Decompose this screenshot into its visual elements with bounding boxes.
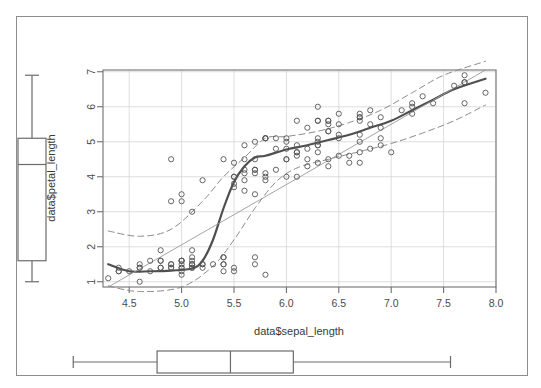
data-point — [221, 269, 226, 274]
y-tick-label: 7 — [85, 69, 97, 75]
data-point — [273, 146, 278, 151]
lower-band — [108, 105, 485, 292]
y-tick-label: 5 — [85, 139, 97, 145]
data-point — [326, 164, 331, 169]
data-point — [315, 150, 320, 155]
linear-fit — [108, 70, 485, 287]
data-point — [357, 160, 362, 165]
data-point — [357, 132, 362, 137]
data-point — [462, 73, 467, 78]
lowess-smoother — [108, 79, 485, 272]
data-point — [242, 188, 247, 193]
y-tick-label: 1 — [85, 279, 97, 285]
y-axis-tick-labels: 1234567 — [85, 69, 97, 285]
y-tick-label: 6 — [85, 104, 97, 110]
data-point — [378, 136, 383, 141]
data-point — [106, 276, 111, 281]
data-point — [315, 118, 320, 123]
data-point — [169, 157, 174, 162]
data-point — [347, 160, 352, 165]
data-point — [200, 178, 205, 183]
x-tick-label: 6.5 — [331, 297, 346, 309]
data-point — [252, 171, 257, 176]
data-point — [326, 122, 331, 127]
data-point — [273, 167, 278, 172]
data-point — [189, 248, 194, 253]
data-point — [221, 262, 226, 267]
data-point — [189, 258, 194, 263]
y-tick-label: 3 — [85, 209, 97, 215]
data-point — [116, 269, 121, 274]
data-point — [368, 122, 373, 127]
x-axis-label: data$sepal_length — [254, 325, 344, 337]
data-point — [326, 129, 331, 134]
data-point — [368, 108, 373, 113]
data-point — [242, 178, 247, 183]
y-tick-label: 2 — [85, 244, 97, 250]
data-point — [378, 125, 383, 130]
x-tick-label: 5.0 — [174, 297, 189, 309]
data-point — [420, 94, 425, 99]
data-point — [294, 118, 299, 123]
scatterplot-figure: 4.55.05.56.06.57.07.58.0 1234567 data$se… — [0, 0, 541, 388]
petal-length-boxplot — [18, 75, 46, 282]
data-point — [169, 199, 174, 204]
data-point — [263, 272, 268, 277]
boxplot-box — [157, 351, 293, 373]
data-point — [378, 115, 383, 120]
sepal-length-boxplot — [73, 351, 450, 373]
data-point — [252, 192, 257, 197]
data-point — [158, 248, 163, 253]
data-point — [483, 90, 488, 95]
data-point — [305, 157, 310, 162]
y-tick-label: 4 — [85, 174, 97, 180]
data-point — [221, 157, 226, 162]
x-tick-label: 6.0 — [279, 297, 294, 309]
x-tick-label: 7.0 — [384, 297, 399, 309]
plot-panel-border — [103, 70, 496, 287]
data-point — [273, 136, 278, 141]
data-point — [347, 153, 352, 158]
x-axis-ticks — [129, 287, 496, 293]
data-point — [399, 108, 404, 113]
data-point — [242, 143, 247, 148]
data-point — [252, 262, 257, 267]
y-axis-ticks — [97, 72, 103, 282]
y-axis-label: data$petal_length — [45, 134, 57, 221]
boxplot-box — [18, 138, 46, 261]
x-tick-label: 7.5 — [436, 297, 451, 309]
data-point — [305, 125, 310, 130]
figure-page: 4.55.05.56.06.57.07.58.0 1234567 data$se… — [0, 0, 541, 388]
grid-lines — [103, 70, 496, 287]
upper-band — [108, 61, 485, 236]
data-point — [158, 265, 163, 270]
data-point — [462, 101, 467, 106]
x-tick-label: 4.5 — [122, 297, 137, 309]
data-point — [431, 101, 436, 106]
data-point — [294, 153, 299, 158]
data-point — [378, 143, 383, 148]
x-tick-label: 5.5 — [227, 297, 242, 309]
data-point — [305, 146, 310, 151]
data-point — [252, 255, 257, 260]
data-point — [158, 258, 163, 263]
x-axis-tick-labels: 4.55.05.56.06.57.07.58.0 — [122, 297, 504, 309]
x-tick-label: 8.0 — [489, 297, 504, 309]
